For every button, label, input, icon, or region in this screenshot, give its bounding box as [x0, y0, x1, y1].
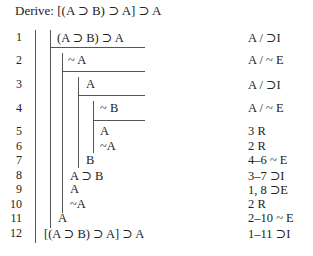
formula: ~A	[100, 139, 116, 154]
line-number: 11	[0, 211, 22, 226]
formula: ~ B	[100, 101, 118, 116]
justification: A / ~ E	[248, 101, 284, 116]
line-number: 4	[0, 101, 22, 116]
justification: A / ⊃I	[248, 30, 281, 46]
justification: 2–10 ~ E	[248, 211, 294, 226]
assumption-bar-1	[50, 47, 145, 48]
scope-line-sub1	[50, 30, 51, 228]
formula: A	[86, 77, 95, 92]
line-number: 7	[0, 153, 22, 168]
scope-line-sub3	[78, 77, 79, 168]
justification: 4–6 ~ E	[248, 153, 287, 168]
justification: 2 R	[248, 139, 266, 154]
justification: 1–11 ⊃I	[248, 226, 290, 242]
assumption-bar-3	[78, 95, 145, 96]
line-number: 8	[0, 168, 22, 183]
formula: ~ A	[68, 53, 86, 68]
formula: B	[86, 153, 94, 168]
derivation-title: Derive: [(A ⊃ B) ⊃ A] ⊃ A	[15, 3, 161, 19]
scope-line-main	[35, 30, 36, 243]
scope-line-sub2	[62, 53, 63, 213]
justification: A / ⊃I	[248, 77, 281, 93]
justification: 3 R	[248, 124, 266, 139]
justification: 1, 8 ⊃E	[248, 182, 288, 198]
line-number: 5	[0, 124, 22, 139]
line-number: 6	[0, 139, 22, 154]
line-number: 10	[0, 197, 22, 212]
formula: A	[70, 182, 79, 197]
formula: A	[58, 211, 67, 226]
formula: (A ⊃ B) ⊃ A	[57, 30, 124, 46]
formula: [(A ⊃ B) ⊃ A] ⊃ A	[44, 226, 144, 242]
line-number: 3	[0, 77, 22, 92]
line-number: 9	[0, 182, 22, 197]
line-number: 12	[0, 226, 22, 241]
justification: 2 R	[248, 197, 266, 212]
scope-line-sub4	[93, 101, 94, 153]
formula: A	[100, 124, 109, 139]
line-number: 2	[0, 53, 22, 68]
line-number: 1	[0, 30, 22, 45]
formula: ~A	[70, 197, 86, 212]
assumption-bar-2	[62, 71, 145, 72]
justification: A / ~ E	[248, 53, 284, 68]
assumption-bar-4	[93, 120, 145, 121]
